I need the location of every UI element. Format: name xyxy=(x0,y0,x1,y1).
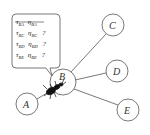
edge-b-c xyxy=(70,34,106,73)
node-d-label: D xyxy=(112,66,121,77)
node-c-label: C xyxy=(109,20,116,31)
node-e-label: E xyxy=(123,105,130,116)
node-b-label: B xyxy=(59,71,65,82)
ant-colony-diagram: A B C D E τBA ηBA τBC ηBC ? τBD ηBD ? τB… xyxy=(0,0,150,135)
edge-b-e xyxy=(74,89,118,105)
node-a-label: A xyxy=(22,99,30,110)
edge-b-d xyxy=(75,73,106,80)
